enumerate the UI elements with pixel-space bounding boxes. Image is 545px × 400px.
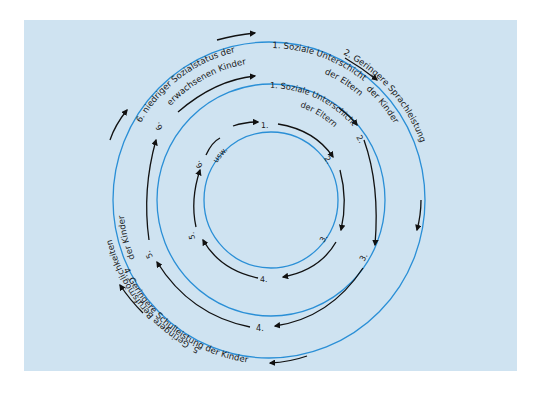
inner-cycle-arrows xyxy=(194,122,345,278)
middle-step4-label: 4. xyxy=(256,323,264,333)
middle-step5-label: 5. xyxy=(142,249,154,260)
outer-step5-sub-label: der Kinder xyxy=(116,214,137,261)
inner-step4-label: 4. xyxy=(260,275,267,284)
inner-step2-label: 2. xyxy=(322,155,334,166)
inner-step3-label: 3. xyxy=(318,233,330,244)
inner-continuation-label: usw. xyxy=(211,145,229,164)
inner-step6-label: 6. xyxy=(193,159,205,170)
inner-step1-label: 1. xyxy=(261,121,268,130)
middle-step6-label: 6. xyxy=(152,120,165,132)
outer-step3-label: 3. Geringere Intelligenzleistung der Kin… xyxy=(0,0,3,2)
vicious-circle-diagram: 1. Soziale Unterschicht der Eltern 2. Ge… xyxy=(0,0,545,400)
inner-step5-label: 5. xyxy=(187,231,197,240)
